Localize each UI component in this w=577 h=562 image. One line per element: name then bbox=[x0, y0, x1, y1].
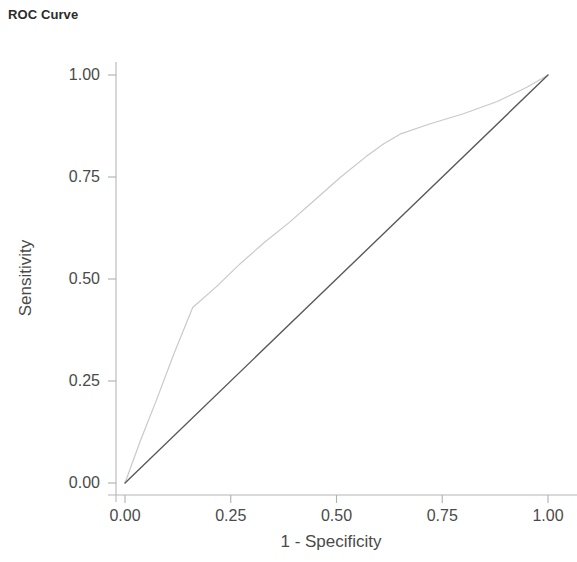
series-line bbox=[125, 75, 548, 483]
y-axis-tick-label: 0.25 bbox=[69, 372, 100, 390]
y-axis-ticks bbox=[108, 75, 116, 483]
y-axis-tick-label: 0.50 bbox=[69, 270, 100, 288]
data-series-group bbox=[125, 75, 548, 483]
x-axis-tick-label: 1.00 bbox=[532, 507, 563, 525]
x-axis-ticks bbox=[125, 495, 548, 503]
y-axis-tick-label: 0.75 bbox=[69, 168, 100, 186]
x-axis-tick-label: 0.25 bbox=[215, 507, 246, 525]
axis-lines bbox=[108, 62, 577, 502]
y-axis-tick-label: 0.00 bbox=[69, 474, 100, 492]
x-axis-tick-label: 0.50 bbox=[321, 507, 352, 525]
y-axis-title: Sensitivity bbox=[16, 240, 36, 317]
x-axis-tick-label: 0.75 bbox=[427, 507, 458, 525]
roc-curve-chart: ROC Curve 0.000.250.500.751.00 0.000.250… bbox=[0, 0, 577, 562]
x-axis-title: 1 - Specificity bbox=[280, 532, 381, 552]
x-axis-tick-label: 0.00 bbox=[109, 507, 140, 525]
y-axis-tick-label: 1.00 bbox=[69, 66, 100, 84]
